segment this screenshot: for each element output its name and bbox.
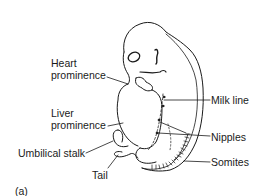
ear	[155, 49, 158, 64]
label-liver-line1: Liver	[51, 107, 106, 119]
heart-prominence	[117, 84, 138, 146]
leader-nipples-2	[158, 133, 210, 136]
nipple-dot	[163, 96, 165, 98]
nipple-dot	[158, 119, 160, 121]
embryo-figure: Heart prominence Liver prominence Umbili…	[0, 0, 269, 196]
label-nipples: Nipples	[211, 131, 246, 143]
umbilical-stalk	[113, 130, 128, 147]
upper-limb	[135, 77, 152, 91]
lower-limb	[136, 148, 156, 163]
leader-nipples-1	[160, 122, 186, 133]
label-liver-line2: prominence	[51, 119, 106, 131]
leg-dashed	[168, 124, 171, 150]
label-heart-prominence: Heart prominence	[51, 57, 106, 81]
label-umbilical-stalk: Umbilical stalk	[18, 147, 85, 159]
label-milk-line: Milk line	[211, 94, 249, 106]
leader-heart	[107, 77, 128, 84]
leader-umbilical	[86, 141, 113, 153]
panel-label: (a)	[15, 185, 28, 196]
nipple-dot	[162, 105, 164, 107]
leader-somites	[184, 161, 210, 162]
label-liver-prominence: Liver prominence	[51, 107, 106, 131]
label-heart-line1: Heart	[51, 57, 106, 69]
jaw	[140, 71, 166, 73]
leader-liver	[108, 123, 123, 126]
label-somites: Somites	[211, 156, 249, 168]
eye	[127, 50, 142, 63]
label-heart-line2: prominence	[51, 69, 106, 81]
leader-tail	[108, 155, 118, 168]
label-tail: Tail	[92, 169, 108, 181]
